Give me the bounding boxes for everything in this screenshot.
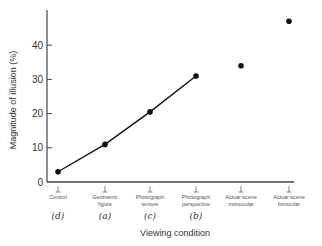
condition-letter-label: (b) <box>190 211 203 221</box>
x-tick-label: Control <box>49 194 67 200</box>
data-point <box>102 142 108 148</box>
x-tick-label: texture <box>142 201 159 207</box>
y-tick-label: 0 <box>37 177 43 188</box>
condition-letter-label: (a) <box>99 211 112 221</box>
x-axis-title: Viewing condition <box>140 228 210 238</box>
x-tick-label: Geometric <box>92 194 118 200</box>
data-point <box>147 109 153 115</box>
y-axis: 010203040 <box>32 10 52 188</box>
y-tick-label: 20 <box>32 108 44 119</box>
x-tick-label: perspective <box>182 201 210 207</box>
x-axis: Control(d)Geometricfigure(a)Photographte… <box>47 182 305 221</box>
x-tick-label: Photograph <box>136 194 164 200</box>
data-series <box>55 18 292 174</box>
x-tick-label: monocular <box>228 201 254 207</box>
data-line <box>58 76 196 172</box>
x-tick-label: Actual scene <box>225 194 257 200</box>
chart: 010203040 Control(d)Geometricfigure(a)Ph… <box>0 0 322 246</box>
x-tick-label: Actual scene <box>273 194 305 200</box>
condition-letter-label: (d) <box>52 211 65 221</box>
y-tick-label: 10 <box>32 142 44 153</box>
x-tick-label: Photograph <box>182 194 210 200</box>
data-point <box>286 18 292 24</box>
y-tick-label: 40 <box>32 40 44 51</box>
data-point <box>193 73 199 79</box>
y-axis-title: Magnitude of illusion (%) <box>8 51 18 150</box>
data-point <box>55 169 61 175</box>
x-tick-label: figure <box>98 201 112 207</box>
condition-letter-label: (c) <box>144 211 157 221</box>
x-tick-label: binocular <box>278 201 300 207</box>
y-tick-label: 30 <box>32 74 44 85</box>
data-point <box>238 63 244 69</box>
